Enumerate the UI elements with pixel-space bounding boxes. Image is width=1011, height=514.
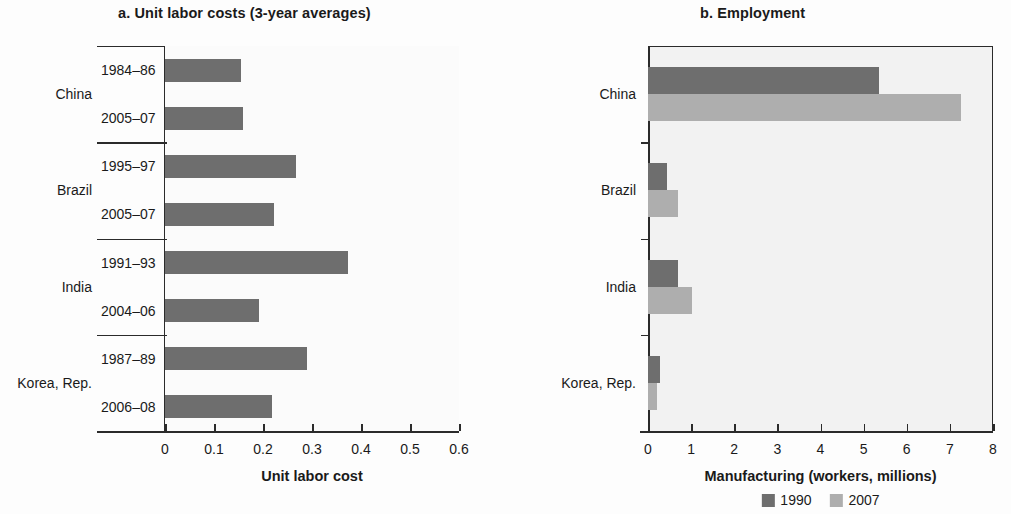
chart-a-x-tick [165,424,167,431]
chart-a-period-label: 1995–97 [101,158,156,174]
chart-b-y-tick [641,142,649,144]
chart-b-bar [648,356,660,383]
chart-b-x-tick-label: 4 [817,441,825,457]
chart-a-group-separator [97,142,167,144]
chart-b-legend-item[interactable]: 2007 [830,492,880,508]
chart-a-category-label: Brazil [57,182,92,198]
chart-a-period-label: 1987–89 [101,351,156,367]
chart-b-bar [648,287,692,314]
chart-b-category-label: China [599,86,636,102]
chart-a-x-tick [459,424,461,431]
chart-b-x-tick [821,424,823,431]
chart-a-x-axis-title: Unit labor cost [261,468,363,484]
chart-a-bar [165,155,296,178]
chart-b-x-tick [864,424,866,431]
chart-a-bar [165,299,259,322]
chart-a-x-tick-label: 0.5 [400,441,419,457]
chart-b-legend-item[interactable]: 1990 [761,492,811,508]
chart-a-plot-area [165,46,459,431]
chart-b-y-tick [641,239,649,241]
chart-a-x-tick [312,424,314,431]
chart-a-x-tick-label: 0.3 [302,441,321,457]
chart-b-x-tick-label: 5 [860,441,868,457]
chart-b-x-tick [907,424,909,431]
chart-b-bar [648,163,667,190]
legend-swatch-icon [830,494,843,507]
chart-a-category-label: India [62,279,92,295]
chart-b-x-tick [648,424,650,431]
chart-a-x-tick-label: 0.2 [253,441,272,457]
chart-b-bar [648,67,879,94]
chart-b-x-tick-label: 1 [687,441,695,457]
chart-b-bar [648,383,657,410]
chart-a-x-tick-label: 0.6 [449,441,468,457]
chart-a-x-tick [263,424,265,431]
chart-b-legend: 19902007 [761,492,879,508]
chart-a-x-tick [361,424,363,431]
chart-a-bar [165,59,241,82]
chart-b-title: b. Employment [700,5,805,21]
chart-a-x-tick-label: 0.4 [351,441,370,457]
chart-a-group-separator [97,239,167,241]
chart-b-x-tick-label: 7 [946,441,954,457]
chart-a-category-label: Korea, Rep. [17,375,92,391]
chart-a-period-label: 2005–07 [101,206,156,222]
chart-b-x-tick-label: 2 [730,441,738,457]
chart-a-bar [165,107,243,130]
chart-a-title: a. Unit labor costs (3-year averages) [118,5,371,21]
chart-a-period-label: 1984–86 [101,62,156,78]
chart-a-period-label: 2006–08 [101,399,156,415]
chart-b-x-tick [734,424,736,431]
chart-panel-a: a. Unit labor costs (3-year averages) 19… [0,0,500,514]
chart-a-x-tick [410,424,412,431]
chart-b-x-tick [950,424,952,431]
chart-b-x-tick [691,424,693,431]
chart-b-y-tick [641,335,649,337]
chart-a-x-tick-label: 0 [161,441,169,457]
chart-b-legend-label: 2007 [849,492,880,508]
chart-b-category-label: Korea, Rep. [561,375,636,391]
chart-a-period-label: 1991–93 [101,255,156,271]
chart-b-bar [648,94,961,121]
figure-root: a. Unit labor costs (3-year averages) 19… [0,0,1011,514]
chart-b-x-tick [777,424,779,431]
chart-b-x-axis-title: Manufacturing (workers, millions) [704,468,936,484]
chart-b-bar [648,190,678,217]
chart-a-group-separator [97,335,167,337]
chart-b-x-axis-line [640,431,993,433]
chart-b-category-label: India [606,279,636,295]
chart-a-bar [165,203,274,226]
chart-a-x-axis-line [97,431,459,433]
chart-b-bar [648,260,678,287]
chart-panel-b: b. Employment ChinaBrazilIndiaKorea, Rep… [500,0,1011,514]
chart-a-period-label: 2005–07 [101,110,156,126]
chart-b-category-label: Brazil [601,182,636,198]
chart-b-x-tick-label: 3 [773,441,781,457]
legend-swatch-icon [761,494,774,507]
chart-b-legend-label: 1990 [780,492,811,508]
chart-b-x-tick-label: 8 [989,441,997,457]
chart-a-category-label: China [55,86,92,102]
chart-a-bar [165,347,307,370]
chart-a-bar [165,395,272,418]
chart-b-x-tick [993,424,995,431]
chart-b-x-tick-label: 6 [903,441,911,457]
chart-a-x-tick [214,424,216,431]
chart-a-period-label: 2004–06 [101,303,156,319]
chart-a-bar [165,251,348,274]
chart-a-x-tick-label: 0.1 [204,441,223,457]
chart-b-x-tick-label: 0 [644,441,652,457]
